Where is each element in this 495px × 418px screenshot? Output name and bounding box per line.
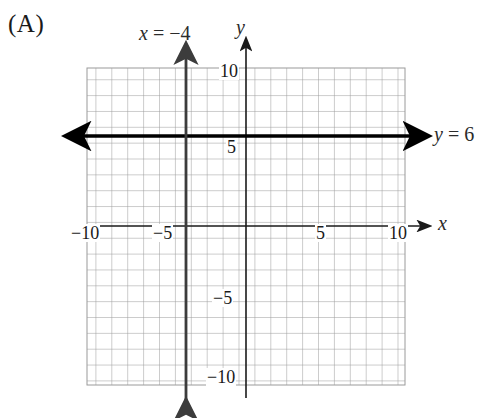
coordinate-plane — [0, 0, 495, 418]
y-tick-5: 5 — [226, 138, 237, 156]
x-tick-10: 10 — [388, 224, 408, 242]
line-label-y-lhs: y — [434, 123, 443, 145]
x-tick-minus-10: −10 — [70, 224, 100, 242]
line-label-x-op: = — [153, 22, 164, 44]
figure-root: (A) — [0, 0, 495, 418]
x-tick-minus-5: −5 — [152, 224, 173, 242]
x-axis-label: x — [438, 212, 447, 235]
line-label-x-rhs: −4 — [169, 22, 190, 44]
y-tick-minus-5: −5 — [212, 289, 233, 307]
line-label-y-op: = — [448, 123, 459, 145]
line-label-y-equals-6: y = 6 — [434, 123, 474, 146]
line-label-x-lhs: x — [139, 22, 148, 44]
x-tick-5: 5 — [315, 224, 326, 242]
y-tick-10: 10 — [219, 62, 239, 80]
line-label-x-equals-minus-4: x = −4 — [139, 22, 190, 45]
line-label-y-rhs: 6 — [464, 123, 474, 145]
y-tick-minus-10: −10 — [206, 368, 236, 386]
y-axis-label: y — [236, 16, 245, 39]
